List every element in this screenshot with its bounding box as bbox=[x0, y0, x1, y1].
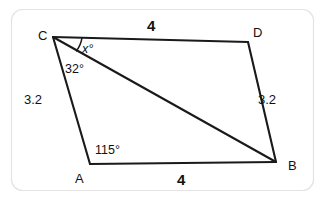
diagram-canvas bbox=[0, 0, 328, 201]
side-label-ab: 4 bbox=[177, 172, 185, 187]
vertex-label-a: A bbox=[75, 172, 84, 185]
angle-label-32: 32° bbox=[65, 63, 84, 76]
angle-label-115: 115° bbox=[95, 144, 120, 157]
angle-label-x: x° bbox=[82, 43, 93, 56]
vertex-label-b: B bbox=[288, 159, 297, 172]
side-label-db: 3.2 bbox=[258, 93, 276, 106]
vertex-label-c: C bbox=[38, 29, 47, 42]
geometry-figure: C D B A 4 4 3.2 3.2 x° 32° 115° bbox=[0, 0, 328, 201]
vertex-label-d: D bbox=[253, 26, 262, 39]
side-label-ca: 3.2 bbox=[24, 93, 42, 106]
side-label-cd: 4 bbox=[147, 18, 155, 33]
